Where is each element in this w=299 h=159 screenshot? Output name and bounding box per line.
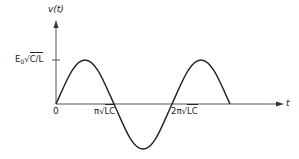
amplitude-radicand: C/L (30, 52, 44, 64)
sqrt-icon: √ (24, 54, 29, 64)
origin-label: 0 (53, 107, 59, 116)
amplitude-label: E0√C/L (15, 55, 43, 65)
x-axis-label: t (286, 99, 290, 108)
x-axis-arrow-icon (276, 102, 284, 107)
tick-radicand: LC (105, 104, 116, 116)
voltage-sine-plot (0, 0, 299, 159)
sqrt-icon: √ (99, 106, 104, 116)
tick-radicand: LC (187, 104, 198, 116)
y-axis-label: v(t) (48, 5, 64, 14)
x-tick-half-period: π√LC (94, 107, 115, 116)
x-tick-full-period: 2π√LC (171, 107, 198, 116)
y-axis-arrow-icon (54, 20, 59, 28)
tick-prefix: 2π (171, 106, 182, 116)
